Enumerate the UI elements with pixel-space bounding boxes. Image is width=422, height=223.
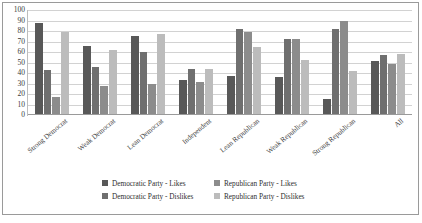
legend-swatch-icon: [214, 193, 220, 199]
bar: [332, 29, 340, 115]
y-axis-tick-label: 40: [18, 69, 26, 77]
x-axis-tick-label: Strong Democrat: [26, 117, 69, 155]
bar: [131, 36, 139, 115]
bar: [349, 71, 357, 115]
y-axis-tick-label: 90: [18, 17, 26, 25]
bar-group: [323, 10, 356, 115]
legend-row: Democratic Party - LikesRepublican Party…: [102, 177, 326, 190]
bar: [188, 69, 196, 115]
y-axis-tick-label: 50: [18, 59, 26, 67]
bar: [340, 21, 348, 116]
bar-group: [371, 10, 404, 115]
bar-group: [179, 10, 212, 115]
bar: [371, 61, 379, 115]
bar: [92, 67, 100, 115]
plot-area: [28, 10, 412, 115]
bar: [380, 55, 388, 115]
y-axis-tick-label: 100: [14, 6, 25, 14]
bar: [292, 39, 300, 115]
legend-item[interactable]: Democratic Party - Dislikes: [102, 193, 214, 200]
bar: [323, 99, 331, 115]
x-axis-tick-label: Weak Democrat: [77, 117, 118, 153]
bar: [227, 76, 235, 115]
bar: [140, 52, 148, 115]
x-axis-tick-label: Weak Republican: [265, 117, 309, 156]
chart-legend: Democratic Party - LikesRepublican Party…: [98, 174, 330, 206]
bar: [157, 34, 165, 115]
y-axis: 0102030405060708090100: [0, 10, 25, 115]
x-axis-tick-label: All: [393, 117, 405, 129]
legend-item[interactable]: Republican Party - Likes: [214, 180, 326, 187]
bars-layer: [28, 10, 412, 115]
bar-chart-figure: 0102030405060708090100 Strong DemocratWe…: [0, 0, 422, 223]
bar: [52, 97, 60, 115]
bar: [397, 54, 405, 115]
legend-item[interactable]: Democratic Party - Likes: [102, 180, 214, 187]
bar: [275, 77, 283, 115]
x-axis: Strong DemocratWeak DemocratLean Democra…: [28, 117, 412, 169]
y-axis-tick-label: 80: [18, 27, 26, 35]
bar-group: [35, 10, 68, 115]
bar: [148, 84, 156, 116]
bar: [35, 23, 43, 115]
bar: [244, 32, 252, 115]
legend-swatch-icon: [214, 180, 220, 186]
legend-label: Republican Party - Likes: [224, 180, 297, 187]
x-axis-tick-label: Lean Republican: [219, 117, 262, 155]
y-axis-tick-label: 70: [18, 38, 26, 46]
bar: [388, 64, 396, 115]
legend-swatch-icon: [102, 193, 108, 199]
bar-group: [83, 10, 116, 115]
legend-label: Democratic Party - Likes: [112, 180, 186, 187]
y-axis-tick-label: 60: [18, 48, 26, 56]
y-axis-tick-label: 30: [18, 80, 26, 88]
y-axis-tick-label: 0: [21, 111, 25, 119]
x-axis-tick-label: Strong Republican: [311, 117, 357, 158]
legend-swatch-icon: [102, 180, 108, 186]
x-axis-tick-label: Independent: [181, 117, 213, 146]
bar: [109, 50, 117, 115]
legend-row: Democratic Party - DislikesRepublican Pa…: [102, 190, 326, 203]
bar: [61, 32, 69, 115]
bar: [100, 86, 108, 115]
legend-item[interactable]: Republican Party - Dislikes: [214, 193, 326, 200]
bar: [236, 29, 244, 115]
legend-label: Democratic Party - Dislikes: [112, 193, 193, 200]
x-axis-tick-label: Lean Democrat: [126, 117, 165, 152]
x-axis-line: [28, 114, 412, 115]
bar: [284, 39, 292, 115]
legend-label: Republican Party - Dislikes: [224, 193, 304, 200]
bar: [179, 80, 187, 115]
bar-group: [275, 10, 308, 115]
y-axis-tick-label: 20: [18, 90, 26, 98]
bar: [205, 69, 213, 115]
y-axis-tick-label: 10: [18, 101, 26, 109]
bar: [301, 60, 309, 115]
bar: [253, 47, 261, 115]
bar: [83, 46, 91, 115]
bar-group: [131, 10, 164, 115]
bar: [44, 70, 52, 115]
bar-group: [227, 10, 260, 115]
bar: [196, 82, 204, 115]
